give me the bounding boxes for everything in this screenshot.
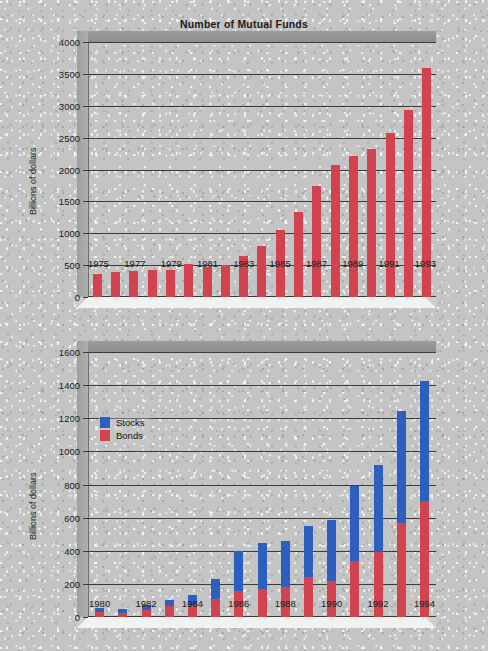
chart-panel-number-of-mutual-funds: Number of Mutual Funds Billions of dolla… [0, 0, 488, 330]
legend-label-stocks: Stocks [116, 417, 145, 428]
bar [111, 272, 120, 297]
bar-series-bottom [88, 352, 436, 617]
y-axis-title-bottom: Billions of dollars [28, 472, 38, 540]
y-axis-tick-label: 1400 [59, 380, 80, 391]
x-axis-tick-label [327, 258, 342, 269]
legend-label-bonds: Bonds [116, 430, 143, 441]
y-axis-tick-label: 800 [64, 479, 80, 490]
bar-slot [343, 352, 366, 617]
bar-slot [227, 352, 250, 617]
y-axis-tick-label: 1200 [59, 413, 80, 424]
legend-swatch-stocks [100, 417, 110, 428]
x-axis-tick-label [158, 598, 181, 609]
legend-item-stocks: Stocks [100, 416, 145, 429]
y-axis-tick-label: 3500 [59, 68, 80, 79]
bar-segment-bonds [142, 610, 151, 617]
x-axis-tick-label: 1986 [227, 598, 250, 609]
x-axis-tick-label [400, 258, 415, 269]
y-axis-tick-label: 1000 [59, 446, 80, 457]
bar-segment-stocks [234, 551, 243, 592]
chart-panel-composition-of-mutual-fund-assets: Composition of Mutual Fund Assets Billio… [0, 330, 488, 651]
bar-segment-stocks [258, 543, 267, 589]
x-axis-tick-label: 1977 [124, 258, 145, 269]
stacked-bar [374, 465, 383, 617]
x-axis-tick-label: 1983 [233, 258, 254, 269]
bar-segment-bonds [95, 612, 104, 617]
x-axis-tick-label: 1989 [342, 258, 363, 269]
x-axis-tick-label: 1981 [197, 258, 218, 269]
y-axis-tick-label: 2000 [59, 164, 80, 175]
x-axis-tick-label: 1980 [88, 598, 111, 609]
chart-legend: Stocks Bonds [98, 414, 150, 444]
plot-area-bottom: 02004006008001000120014001600 [88, 352, 436, 617]
stacked-bar [118, 609, 127, 617]
x-axis-tick-label: 1975 [88, 258, 109, 269]
bar-slot [413, 352, 436, 617]
x-axis-tick-label [291, 258, 306, 269]
bar [257, 246, 266, 297]
y-axis-tick-label: 500 [64, 260, 80, 271]
x-axis-tick-label: 1988 [274, 598, 297, 609]
bar [386, 133, 395, 297]
bar-slot [366, 352, 389, 617]
bar-slot [274, 352, 297, 617]
bar [294, 212, 303, 297]
bar-slot [320, 352, 343, 617]
stacked-bar [420, 381, 429, 617]
x-axis-tick-label [111, 598, 134, 609]
x-axis-tick-label [145, 258, 160, 269]
y-axis-tick [83, 297, 88, 298]
y-axis-title-top: Billions of dollars [28, 147, 38, 215]
bar-slot [204, 352, 227, 617]
bar-slot [181, 352, 204, 617]
bar [93, 274, 102, 297]
x-axis-tick-label [363, 258, 378, 269]
bar-segment-stocks [397, 411, 406, 524]
bar [221, 265, 230, 297]
x-axis-tick-label: 1991 [379, 258, 400, 269]
x-axis-tick-label [297, 598, 320, 609]
plot-frame-top-wall [88, 31, 436, 42]
bar-segment-stocks [327, 520, 336, 580]
y-axis-tick-label: 0 [75, 612, 80, 623]
y-axis-tick [83, 617, 88, 618]
legend-item-bonds: Bonds [100, 429, 145, 442]
bar-slot [134, 352, 157, 617]
x-axis-labels-bottom: 19801982198419861988199019921994 [88, 598, 436, 609]
chart-title-top: Number of Mutual Funds [0, 18, 488, 30]
bar-slot [158, 352, 181, 617]
bar-segment-bonds [118, 613, 127, 617]
x-axis-tick-label [218, 258, 233, 269]
y-axis-tick-label: 1000 [59, 228, 80, 239]
bar-segment-stocks [420, 381, 429, 501]
x-axis-tick-label [204, 598, 227, 609]
x-axis-labels-top: 1975197719791981198319851987198919911993 [88, 258, 436, 269]
bar-slot [390, 352, 413, 617]
bar-slot [297, 352, 320, 617]
bar-segment-stocks [281, 541, 290, 587]
bar-segment-stocks [304, 526, 313, 577]
bar [166, 270, 175, 297]
bar-segment-stocks [350, 486, 359, 561]
bar [367, 149, 376, 297]
x-axis-tick-label [182, 258, 197, 269]
x-axis-tick-label [343, 598, 366, 609]
y-axis-tick-label: 2500 [59, 132, 80, 143]
bar [349, 156, 358, 297]
x-axis-tick-label: 1984 [181, 598, 204, 609]
bar [203, 267, 212, 297]
y-axis-tick-label: 0 [75, 292, 80, 303]
y-axis-tick-label: 200 [64, 578, 80, 589]
bar-segment-stocks [374, 465, 383, 552]
bar [331, 165, 340, 297]
y-axis-tick-label: 400 [64, 545, 80, 556]
y-axis-tick-label: 4000 [59, 37, 80, 48]
x-axis-tick-label [250, 598, 273, 609]
bar-slot [88, 352, 111, 617]
bar [129, 271, 138, 297]
x-axis-tick-label: 1987 [306, 258, 327, 269]
plot-frame-floor [77, 617, 436, 628]
bar-segment-stocks [211, 579, 220, 599]
x-axis-tick-label: 1993 [415, 258, 436, 269]
y-axis-tick-label: 1600 [59, 347, 80, 358]
